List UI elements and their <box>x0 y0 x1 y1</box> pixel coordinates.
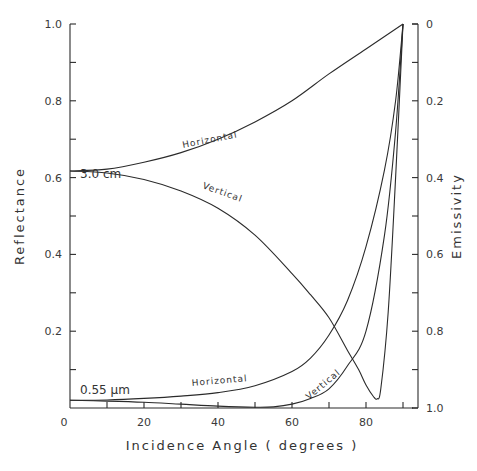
y2-tick-label: 1.0 <box>426 402 444 415</box>
y-tick-label: 0.6 <box>45 172 63 185</box>
label-055um-horizontal: Horizontal <box>191 373 248 388</box>
curve-3cm-horizontal <box>70 24 403 171</box>
curve-055um-vertical <box>70 24 403 407</box>
y2-tick-label: 0 <box>426 18 433 31</box>
x-axis-title: Incidence Angle ( degrees ) <box>126 438 358 453</box>
label-055um-vertical: Vertical <box>304 367 342 401</box>
label-3cm-horizontal: Horizontal <box>181 129 238 149</box>
y-tick-label: 0.8 <box>45 95 63 108</box>
curve-3cm-vertical <box>70 24 403 399</box>
label-3cm-vertical: Vertical <box>201 180 244 204</box>
x-tick-label: 40 <box>211 416 225 429</box>
curve-055um-horizontal <box>70 24 403 400</box>
y-tick-label: 1.0 <box>45 18 63 31</box>
label-3cm: 3.0 cm <box>80 167 121 181</box>
x-tick-label: 0 <box>61 416 68 429</box>
y2-tick-label: 0.2 <box>426 95 444 108</box>
y2-tick-label: 0.6 <box>426 248 444 261</box>
y2-tick-label: 0.4 <box>426 172 444 185</box>
y2-axis-title: Emissivity <box>449 173 464 259</box>
chart: 0.20.40.60.81.002040608000.20.40.60.81.0… <box>0 0 477 471</box>
y-axis-title: Reflectance <box>12 167 27 265</box>
labels: 3.0 cm0.55 µmHorizontalVerticalHorizonta… <box>80 129 342 401</box>
x-tick-label: 60 <box>285 416 299 429</box>
y-tick-label: 0.2 <box>45 325 63 338</box>
y2-tick-label: 0.8 <box>426 325 444 338</box>
x-tick-label: 80 <box>359 416 373 429</box>
y-tick-label: 0.4 <box>45 248 63 261</box>
label-055um: 0.55 µm <box>80 383 130 397</box>
curves <box>70 24 403 407</box>
x-tick-label: 20 <box>137 416 151 429</box>
